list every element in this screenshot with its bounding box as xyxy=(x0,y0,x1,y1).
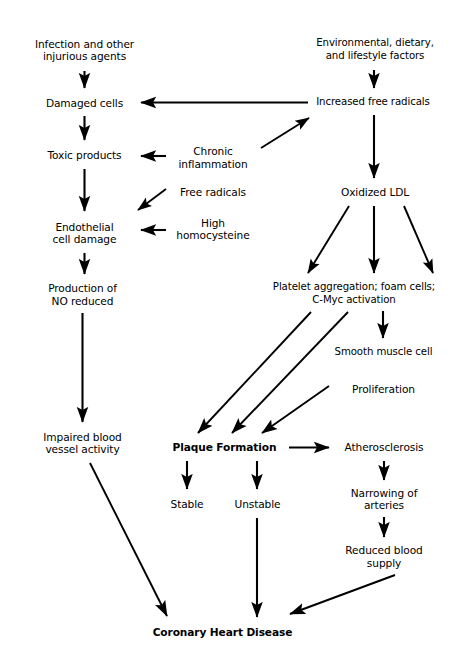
edge-reducedsupply-chd xyxy=(290,575,395,614)
node-label: Chronic inflammation xyxy=(178,145,247,170)
node-label: Toxic products xyxy=(47,149,121,162)
node-oxidized-ldl[interactable]: Oxidized LDL xyxy=(313,180,437,205)
edge-impaired-chd xyxy=(90,463,167,616)
edge-proliferation-plaque xyxy=(262,386,329,433)
node-atherosclerosis[interactable]: Atherosclerosis xyxy=(331,435,437,460)
edge-freeradicals-endothelial xyxy=(138,189,166,210)
edge-oxidized-platelet-right xyxy=(404,206,433,273)
node-plaque-formation[interactable]: Plaque Formation xyxy=(162,435,287,460)
node-label: Production of NO reduced xyxy=(48,282,117,307)
node-label: Unstable xyxy=(234,498,280,511)
node-unstable[interactable]: Unstable xyxy=(229,491,286,517)
edge-platelet-plaque-b xyxy=(232,312,348,433)
node-toxic-products[interactable]: Toxic products xyxy=(31,142,138,169)
node-increased-free-radicals[interactable]: Increased free radicals xyxy=(309,90,437,115)
node-damaged-cells[interactable]: Damaged cells xyxy=(31,90,138,116)
node-coronary-heart-disease[interactable]: Coronary Heart Disease xyxy=(142,619,303,646)
edge-oxidized-platelet-left xyxy=(308,206,349,273)
node-stable[interactable]: Stable xyxy=(161,491,213,517)
node-label: Environmental, dietary, and lifestyle fa… xyxy=(316,37,434,61)
node-label: Stable xyxy=(171,498,204,511)
node-high-homocysteine[interactable]: High homocysteine xyxy=(167,211,259,247)
node-reduced-blood-supply[interactable]: Reduced blood supply xyxy=(331,539,437,574)
edge-chronic-increased xyxy=(261,118,309,148)
node-label: Infection and other injurious agents xyxy=(35,38,134,63)
node-label: Free radicals xyxy=(180,186,246,199)
node-platelet-aggregation-foam-cells-cmyc-activation[interactable]: Platelet aggregation; foam cells; C-Myc … xyxy=(264,276,444,311)
node-label: Oxidized LDL xyxy=(341,186,409,199)
node-label: Endothelial cell damage xyxy=(53,221,117,246)
node-production-of-no-reduced[interactable]: Production of NO reduced xyxy=(31,276,134,313)
node-narrowing-of-arteries[interactable]: Narrowing of arteries xyxy=(331,482,437,516)
node-label: Increased free radicals xyxy=(316,96,430,108)
node-label: Reduced blood supply xyxy=(345,544,422,569)
flowchart-diagram: Infection and other injurious agents Dam… xyxy=(0,0,464,672)
node-label: Impaired blood vessel activity xyxy=(43,431,121,456)
node-label: Proliferation xyxy=(352,383,415,396)
node-label: Damaged cells xyxy=(46,97,123,110)
node-smooth-muscle-cell[interactable]: Smooth muscle cell xyxy=(330,340,437,365)
node-label: High homocysteine xyxy=(176,217,249,242)
node-endothelial-cell-damage[interactable]: Endothelial cell damage xyxy=(31,213,138,253)
node-proliferation[interactable]: Proliferation xyxy=(330,377,437,401)
node-label: Platelet aggregation; foam cells; C-Myc … xyxy=(273,281,435,305)
node-infection-and-other-injurious-agents[interactable]: Infection and other injurious agents xyxy=(16,29,153,71)
node-environmental-dietary-lifestyle-factors[interactable]: Environmental, dietary, and lifestyle fa… xyxy=(313,29,437,70)
node-free-radicals[interactable]: Free radicals xyxy=(167,181,259,204)
node-label: Narrowing of arteries xyxy=(351,487,418,512)
edge-platelet-plaque-a xyxy=(198,312,311,433)
node-chronic-inflammation[interactable]: Chronic inflammation xyxy=(167,140,259,175)
node-label: Plaque Formation xyxy=(173,441,277,454)
node-label: Atherosclerosis xyxy=(345,441,424,454)
node-impaired-blood-vessel-activity[interactable]: Impaired blood vessel activity xyxy=(31,424,134,462)
node-label: Coronary Heart Disease xyxy=(153,626,293,639)
node-label: Smooth muscle cell xyxy=(335,346,433,358)
